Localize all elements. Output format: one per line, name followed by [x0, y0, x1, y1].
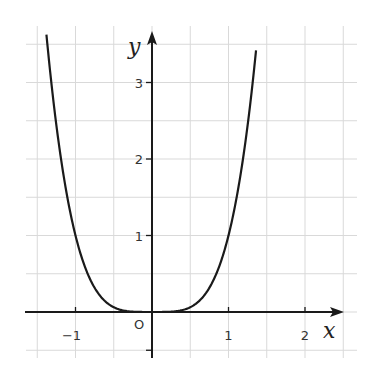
- x-axis-label: x: [323, 318, 336, 343]
- x-tick-label: 2: [301, 328, 309, 343]
- function-graph: −112123 y x O: [0, 0, 375, 371]
- y-axis-label: y: [127, 34, 141, 59]
- x-tick-label: −1: [62, 328, 81, 343]
- y-tick-label: 1: [135, 229, 143, 244]
- x-tick-label: 1: [224, 328, 232, 343]
- y-tick-label: 2: [135, 152, 143, 167]
- y-tick-label: 3: [135, 76, 143, 91]
- origin-label: O: [134, 317, 144, 332]
